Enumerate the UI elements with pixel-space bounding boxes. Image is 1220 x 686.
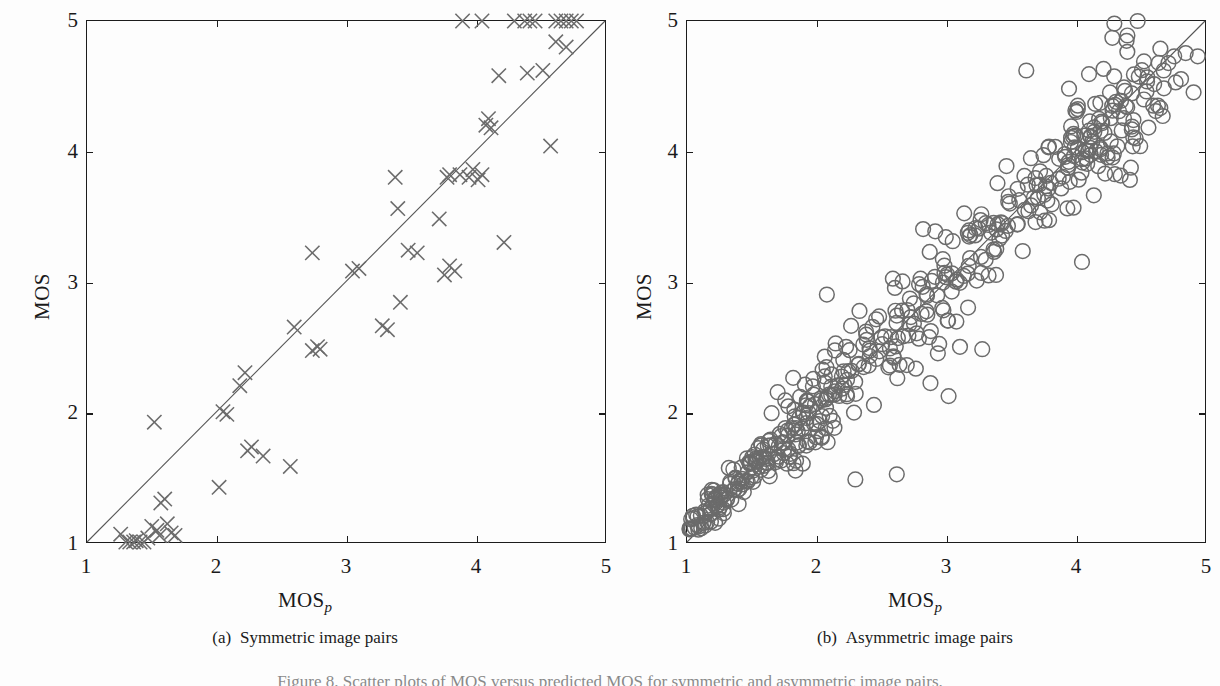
circle-marker xyxy=(867,398,882,413)
circle-marker-outlier xyxy=(1075,255,1090,270)
panel-a-scatter-canvas xyxy=(87,21,605,542)
panel-b-x-axis-title-text: MOS xyxy=(888,588,934,612)
circle-marker xyxy=(764,406,779,421)
circle-marker xyxy=(1168,75,1183,90)
panel-a-xtick-label-2: 2 xyxy=(211,556,222,577)
panel-a-ytick-label-4: 4 xyxy=(48,140,78,161)
circle-marker-outlier xyxy=(923,376,938,391)
circle-marker xyxy=(949,314,964,329)
cross-marker xyxy=(283,459,297,473)
circle-marker xyxy=(1096,62,1111,77)
cross-marker xyxy=(244,440,258,454)
cross-marker xyxy=(380,323,394,337)
cross-marker xyxy=(543,139,557,153)
panel-b-xtick-label-2: 2 xyxy=(811,556,822,577)
cross-marker xyxy=(455,14,469,28)
circle-marker xyxy=(1015,244,1030,259)
cross-marker xyxy=(287,320,301,334)
circle-marker xyxy=(908,361,923,376)
circle-marker xyxy=(978,252,993,267)
circle-marker xyxy=(885,271,900,286)
panel-b-caption: (b)Asymmetric image pairs xyxy=(610,628,1220,648)
circle-marker xyxy=(957,206,972,221)
panel-b-xtick-label-4: 4 xyxy=(1071,556,1082,577)
cross-marker xyxy=(147,415,161,429)
cross-marker xyxy=(391,201,405,215)
cross-marker xyxy=(212,480,226,494)
circle-marker-outlier xyxy=(1130,14,1145,29)
cross-marker xyxy=(352,261,366,275)
cross-marker xyxy=(520,66,534,80)
cross-marker xyxy=(481,112,495,126)
cross-marker xyxy=(238,366,252,380)
cross-marker xyxy=(432,212,446,226)
panel-a-ytick-label-1: 1 xyxy=(48,533,78,554)
panel-b-xtick-label-1: 1 xyxy=(681,556,692,577)
cross-marker xyxy=(475,14,489,28)
circle-marker-outlier xyxy=(1062,81,1077,96)
panel-b-xtick-label-5: 5 xyxy=(1201,556,1212,577)
circle-marker xyxy=(1105,30,1120,45)
cross-marker xyxy=(150,523,164,537)
circle-marker xyxy=(844,319,859,334)
panel-a-xtick-label-1: 1 xyxy=(81,556,92,577)
circle-marker xyxy=(890,371,905,386)
circle-marker-outlier xyxy=(1107,16,1122,31)
panel-b-x-axis-title-subscript: p xyxy=(934,599,942,615)
panel-b-ytick-label-4: 4 xyxy=(648,140,678,161)
circle-marker xyxy=(1141,120,1156,135)
panel-b-x-axis-title: MOSp xyxy=(610,588,1220,616)
circle-marker xyxy=(930,346,945,361)
cross-marker xyxy=(393,295,407,309)
panel-a-caption-label: (a) xyxy=(212,628,231,647)
circle-marker xyxy=(847,405,862,420)
panel-a-caption-text: Symmetric image pairs xyxy=(240,628,398,647)
circle-marker xyxy=(1120,44,1135,59)
identity-reference-line xyxy=(87,21,605,542)
panel-a-x-axis-title-subscript: p xyxy=(324,599,332,615)
panel-b-caption-text: Asymmetric image pairs xyxy=(846,628,1013,647)
circle-marker xyxy=(1186,85,1201,100)
cross-marker xyxy=(497,235,511,249)
circle-marker xyxy=(1137,54,1152,69)
circle-marker xyxy=(922,245,937,260)
panel-a-x-axis-title-text: MOS xyxy=(278,588,324,612)
circle-marker xyxy=(852,304,867,319)
circle-marker xyxy=(1174,72,1189,87)
cross-marker xyxy=(305,246,319,260)
circle-marker-outlier xyxy=(889,467,904,482)
cross-marker xyxy=(492,69,506,83)
cross-marker xyxy=(410,246,424,260)
circle-marker-outlier xyxy=(819,287,834,302)
panel-a-ytick-label-3: 3 xyxy=(48,271,78,292)
panel-a-xtick-label-4: 4 xyxy=(471,556,482,577)
circle-marker xyxy=(872,309,887,324)
panel-b-asymmetric: MOS 1 2 3 4 5 1 2 3 4 5 MOSp xyxy=(610,0,1220,686)
circle-marker xyxy=(912,331,927,346)
panel-a-xtick-label-3: 3 xyxy=(341,556,352,577)
cross-marker xyxy=(113,527,127,541)
circle-marker xyxy=(1107,69,1122,84)
panel-b-xtick-label-3: 3 xyxy=(941,556,952,577)
circle-marker xyxy=(990,176,1005,191)
cross-marker xyxy=(158,492,172,506)
cross-marker xyxy=(448,264,462,278)
panel-a-caption: (a)Symmetric image pairs xyxy=(0,628,610,648)
cross-marker xyxy=(168,528,182,542)
cross-marker xyxy=(388,170,402,184)
circle-marker-outlier xyxy=(941,389,956,404)
panel-b-plot-area xyxy=(686,20,1206,543)
cross-marker xyxy=(475,168,489,182)
circle-marker xyxy=(1157,81,1172,96)
circle-marker xyxy=(944,284,959,299)
panel-b-ytick-label-5: 5 xyxy=(648,10,678,31)
panel-b-scatter-canvas xyxy=(687,21,1205,542)
circle-marker-outlier xyxy=(770,385,785,400)
panel-a-ytick-label-2: 2 xyxy=(48,402,78,423)
panel-a-ytick-label-5: 5 xyxy=(48,10,78,31)
circle-marker xyxy=(1086,188,1101,203)
circle-marker xyxy=(1017,169,1032,184)
panel-b-caption-label: (b) xyxy=(817,628,837,647)
circle-marker xyxy=(1010,217,1025,232)
panel-b-ytick-label-2: 2 xyxy=(648,402,678,423)
